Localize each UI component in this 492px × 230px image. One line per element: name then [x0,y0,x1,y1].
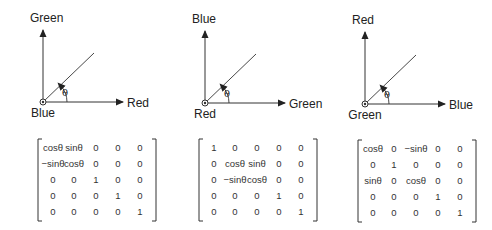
rotated-axis-line [43,53,94,102]
matrix-cell: 1 [391,159,396,170]
matrix-row: cosθsinθ000 [43,142,143,153]
vertical-axis-label: Red [352,13,374,27]
matrix-left-bracket [358,140,362,222]
matrix-cell: 0 [254,190,259,201]
panel-rotation-about-blue: GreenRedBlueθcosθsinθ000−sinθcosθ0000010… [30,11,156,221]
matrix-cell: 0 [254,142,259,153]
matrix-row: 10000 [211,142,303,153]
matrix-cell: 0 [457,191,462,202]
matrix-cell: 0 [93,206,98,217]
matrix-cell: cosθ [43,142,63,153]
matrix-row: 00100 [50,174,142,185]
matrix-cell: 0 [298,158,303,169]
matrix-cell: 0 [370,191,375,202]
matrix-cell: 1 [137,206,142,217]
matrix-row: 00010 [211,190,303,201]
matrix-right-bracket [472,140,476,222]
rotation-matrix: cosθ0−sinθ0001000sinθ0cosθ000001000001 [358,140,476,222]
horizontal-axis-label: Red [127,96,149,110]
matrix-cell: 0 [391,207,396,218]
matrix-cell: −sinθ [42,158,65,169]
matrix-cell: 0 [232,142,237,153]
matrix-row: 0cosθsinθ00 [211,158,303,169]
matrix-cell: 0 [276,158,281,169]
theta-angle-label: θ [62,87,68,98]
matrix-row: 00010 [370,191,462,202]
matrix-cell: 0 [137,142,142,153]
matrix-cell: 0 [298,174,303,185]
matrix-cell: cosθ [363,143,383,154]
matrix-row: −sinθcosθ000 [42,158,143,169]
matrix-cell: 0 [298,190,303,201]
matrix-right-bracket [152,139,156,221]
origin-axis-label: Blue [31,106,55,120]
matrix-cell: 0 [413,159,418,170]
matrix-cell: 0 [211,206,216,217]
matrix-cell: 0 [137,190,142,201]
origin-dot-icon [42,101,44,103]
matrix-cell: 1 [276,190,281,201]
horizontal-axis-label: Blue [449,98,473,112]
matrix-cell: sinθ [364,175,381,186]
matrix-left-bracket [38,139,42,221]
matrix-cell: 0 [391,175,396,186]
theta-angle-label: θ [384,89,390,100]
matrix-cell: 0 [457,175,462,186]
origin-axis-label: Red [194,107,216,121]
matrix-cell: 0 [457,159,462,170]
matrix-cell: 0 [391,191,396,202]
matrix-cell: 0 [71,206,76,217]
matrix-cell: 0 [115,206,120,217]
matrix-cell: 0 [50,190,55,201]
matrix-left-bracket [199,139,203,221]
matrix-cell: 1 [435,191,440,202]
matrix-cell: 0 [435,207,440,218]
matrix-cell: 0 [435,143,440,154]
matrix-cell: 0 [137,174,142,185]
matrix-row: 00001 [50,206,142,217]
origin-dot-icon [204,102,206,104]
matrix-cell: 1 [211,142,216,153]
matrix-cell: 0 [211,174,216,185]
matrix-cell: cosθ [64,158,84,169]
rotation-matrix: 100000cosθsinθ000−sinθcosθ000001000001 [199,139,317,221]
matrix-cell: 0 [457,143,462,154]
rotated-axis-line [205,54,256,103]
matrix-cell: 0 [413,191,418,202]
matrix-cell: 0 [71,174,76,185]
matrix-cell: 0 [276,142,281,153]
matrix-cell: 0 [370,207,375,218]
matrix-cell: cosθ [406,175,426,186]
matrix-cell: 0 [137,158,142,169]
matrix-cell: sinθ [248,158,265,169]
matrix-cell: 0 [413,207,418,218]
matrix-cell: 0 [232,190,237,201]
matrix-cell: 0 [370,159,375,170]
theta-angle-label: θ [224,88,230,99]
matrix-cell: 0 [298,142,303,153]
matrix-row: 0−sinθcosθ00 [211,174,303,185]
matrix-cell: 0 [50,174,55,185]
color-rotation-figure: GreenRedBlueθcosθsinθ000−sinθcosθ0000010… [0,0,492,230]
rotated-axis-line [365,55,416,104]
matrix-row: 00001 [211,206,303,217]
matrix-cell: sinθ [65,142,82,153]
matrix-cell: 0 [93,190,98,201]
matrix-cell: 0 [391,143,396,154]
horizontal-axis-label: Green [289,97,322,111]
matrix-cell: 0 [211,158,216,169]
matrix-cell: 0 [211,190,216,201]
matrix-cell: 0 [50,206,55,217]
matrix-row: cosθ0−sinθ00 [363,143,463,154]
matrix-cell: 0 [115,142,120,153]
matrix-cell: 0 [254,206,259,217]
vertical-axis-label: Blue [192,12,216,26]
matrix-cell: cosθ [247,174,267,185]
matrix-cell: 0 [276,206,281,217]
matrix-cell: 1 [457,207,462,218]
origin-axis-label: Green [348,108,381,122]
matrix-cell: 0 [232,206,237,217]
rotation-matrix: cosθsinθ000−sinθcosθ000001000001000001 [38,139,156,221]
matrix-cell: 0 [115,174,120,185]
panel-rotation-about-red: BlueGreenRedθ100000cosθsinθ000−sinθcosθ0… [192,12,322,221]
